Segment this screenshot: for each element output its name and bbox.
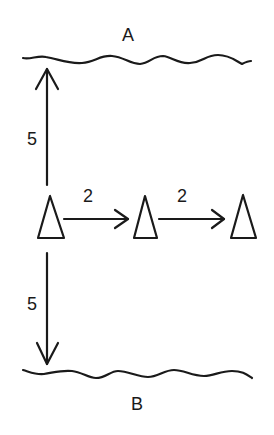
distance-label-to-b: 5 (27, 294, 37, 314)
arrow-cone1-to-cone2 (64, 210, 128, 228)
distance-label-to-a: 5 (27, 129, 37, 149)
cone-2-icon (134, 196, 157, 238)
arrow-down-to-b (37, 253, 58, 364)
distance-label-cone2-cone3: 2 (177, 186, 187, 206)
boundary-label-b: B (131, 394, 143, 414)
arrow-up-to-a (36, 69, 58, 185)
boundary-line-a (23, 55, 251, 64)
cone-3-icon (231, 195, 256, 238)
boundary-label-a: A (122, 25, 134, 45)
cone-layout-diagram: A 5 2 2 5 B (0, 0, 274, 435)
distance-label-cone1-cone2: 2 (83, 186, 93, 206)
arrow-cone2-to-cone3 (159, 210, 224, 228)
boundary-line-b (23, 370, 252, 378)
cone-1-icon (38, 196, 64, 238)
